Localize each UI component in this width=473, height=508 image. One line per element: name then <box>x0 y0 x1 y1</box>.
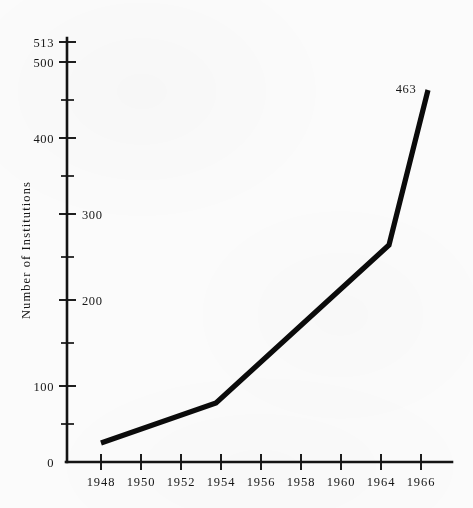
data-point-label-463: 463 <box>396 82 417 96</box>
axes-group <box>66 38 452 462</box>
x-axis-tick-labels: 1948 1950 1952 1954 1956 1958 1960 1964 … <box>87 475 436 489</box>
chart-figure: 513 500 400 100 0 300 200 Number of Inst… <box>0 0 473 508</box>
x-tick-label-1960: 1960 <box>327 475 356 489</box>
y-tick-label-500: 500 <box>33 56 54 70</box>
y-tick-label-100: 100 <box>33 380 54 394</box>
x-tick-label-1966: 1966 <box>407 475 436 489</box>
x-tick-label-1950: 1950 <box>127 475 156 489</box>
y-axis-title: Number of Institutions <box>19 181 33 319</box>
y-tick-label-513: 513 <box>33 36 54 50</box>
y-tick-label-0: 0 <box>47 456 54 470</box>
x-tick-label-1948: 1948 <box>87 475 116 489</box>
y-tick-label-300: 300 <box>82 208 103 222</box>
line-chart-canvas: 513 500 400 100 0 300 200 Number of Inst… <box>0 0 473 508</box>
y-tick-label-400: 400 <box>33 132 54 146</box>
data-series-number-of-institutions <box>101 90 428 443</box>
x-tick-label-1952: 1952 <box>167 475 196 489</box>
x-tick-label-1954: 1954 <box>207 475 236 489</box>
x-tick-label-1956: 1956 <box>247 475 276 489</box>
x-tick-label-1958: 1958 <box>287 475 316 489</box>
x-tick-label-1964: 1964 <box>367 475 396 489</box>
y-tick-label-200: 200 <box>82 294 103 308</box>
